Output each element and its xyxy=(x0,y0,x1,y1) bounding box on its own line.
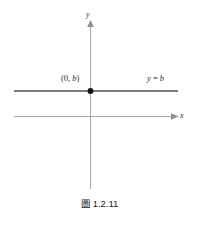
figure-container: y x (0, b) y = b 圖1.2.11 xyxy=(0,0,199,226)
point-coordinate-label: (0, b) xyxy=(61,74,79,83)
line-equation-operator: = xyxy=(151,73,160,83)
caption-figure-number: 1.2.11 xyxy=(93,198,119,209)
line-equation-label: y = b xyxy=(147,74,164,83)
y-axis-group xyxy=(87,20,94,189)
y-axis-label-text: y xyxy=(86,10,90,19)
point-0-b-marker xyxy=(88,88,94,94)
point-label-open: (0, xyxy=(61,73,72,83)
x-axis-label-text: x xyxy=(180,111,184,120)
caption-figure-glyph: 圖 xyxy=(81,198,91,209)
point-label-close: ) xyxy=(77,73,80,83)
coordinate-plane xyxy=(0,0,199,226)
y-axis-label: y xyxy=(86,11,90,19)
x-axis-label: x xyxy=(180,112,184,120)
line-equation-rhs: b xyxy=(160,73,164,83)
x-axis-group xyxy=(14,113,179,120)
y-axis-arrowhead xyxy=(87,20,94,27)
figure-caption: 圖1.2.11 xyxy=(0,196,199,210)
x-axis-arrowhead xyxy=(171,113,179,120)
